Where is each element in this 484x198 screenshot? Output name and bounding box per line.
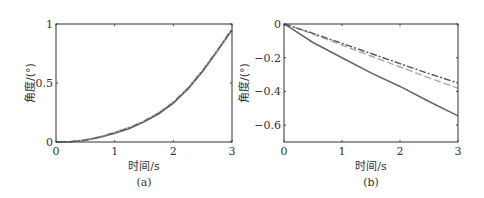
axes-box — [284, 24, 458, 142]
y-tick-label: 1 — [46, 18, 53, 31]
panel-caption: (b) — [363, 176, 379, 189]
y-tick-label: 0 — [274, 18, 281, 31]
y-tick-label: −0.4 — [254, 85, 281, 98]
y-tick-label: −0.6 — [254, 119, 281, 132]
figure: 012300.51时间/s角度/(°)(a)01230−0.2−0.4−0.6时… — [0, 0, 484, 198]
x-tick-label: 2 — [170, 145, 177, 158]
series-dashed — [284, 24, 458, 88]
x-tick-label: 1 — [339, 145, 346, 158]
x-tick-label: 2 — [397, 145, 404, 158]
x-tick-label: 3 — [229, 145, 236, 158]
x-axis-label: 时间/s — [355, 160, 387, 173]
series-solid — [56, 30, 232, 142]
y-axis-label: 角度/(°) — [237, 63, 251, 103]
y-axis-label: 角度/(°) — [23, 63, 37, 103]
x-axis-label: 时间/s — [128, 160, 160, 173]
y-tick-label: 0.5 — [36, 77, 54, 90]
chart-panel-a: 012300.51时间/s角度/(°)(a) — [23, 18, 236, 189]
chart-panel-b: 01230−0.2−0.4−0.6时间/s角度/(°)(b) — [237, 18, 462, 189]
axes-box — [56, 24, 232, 142]
x-tick-label: 0 — [53, 145, 60, 158]
series-dash-dot — [56, 29, 232, 142]
y-tick-label: −0.2 — [254, 52, 281, 65]
series-solid — [284, 24, 458, 116]
series-dashed — [56, 29, 232, 142]
series-dash-dot — [284, 24, 458, 83]
y-tick-label: 0 — [46, 136, 53, 149]
x-tick-label: 0 — [281, 145, 288, 158]
panel-caption: (a) — [136, 176, 151, 189]
x-tick-label: 3 — [455, 145, 462, 158]
x-tick-label: 1 — [111, 145, 118, 158]
